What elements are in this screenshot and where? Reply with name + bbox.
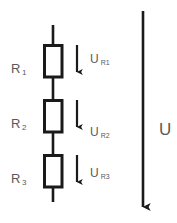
voltage-drop-1-label: UR1 [90, 53, 108, 65]
voltage-drop-2-label-main: U [90, 125, 99, 139]
voltage-drop-1-label-subscript: R1 [101, 59, 110, 66]
resistor-3-label-subscript: 3 [22, 178, 26, 187]
voltage-drop-3-label: UR3 [90, 167, 108, 179]
voltage-drop-2-label-subscript: R2 [101, 132, 110, 139]
resistor-1-label-subscript: 1 [22, 68, 26, 77]
resistor-2-label-subscript: 2 [22, 123, 26, 132]
circuit-diagram: R1 R2 R3 UR1 UR2 UR3 U [0, 0, 177, 223]
resistor-3-label-main: R [11, 171, 21, 186]
voltage-drop-1-label-main: U [90, 52, 99, 66]
voltage-drop-3-label-main: U [90, 166, 99, 180]
resistor-1-label: R1 [11, 62, 25, 75]
resistor-2-label-main: R [11, 116, 21, 131]
resistor-1-body [45, 46, 63, 78]
voltage-drop-3-label-subscript: R3 [101, 173, 110, 180]
resistor-2-label: R2 [11, 117, 25, 130]
resistor-3-body [45, 156, 63, 188]
voltage-drop-2-label: UR2 [90, 126, 108, 138]
circuit-schematic-svg [0, 0, 177, 223]
resistor-2-body [45, 101, 63, 133]
resistor-1-label-main: R [11, 61, 21, 76]
total-voltage-label: U [159, 121, 171, 138]
resistor-3-label: R3 [11, 172, 25, 185]
